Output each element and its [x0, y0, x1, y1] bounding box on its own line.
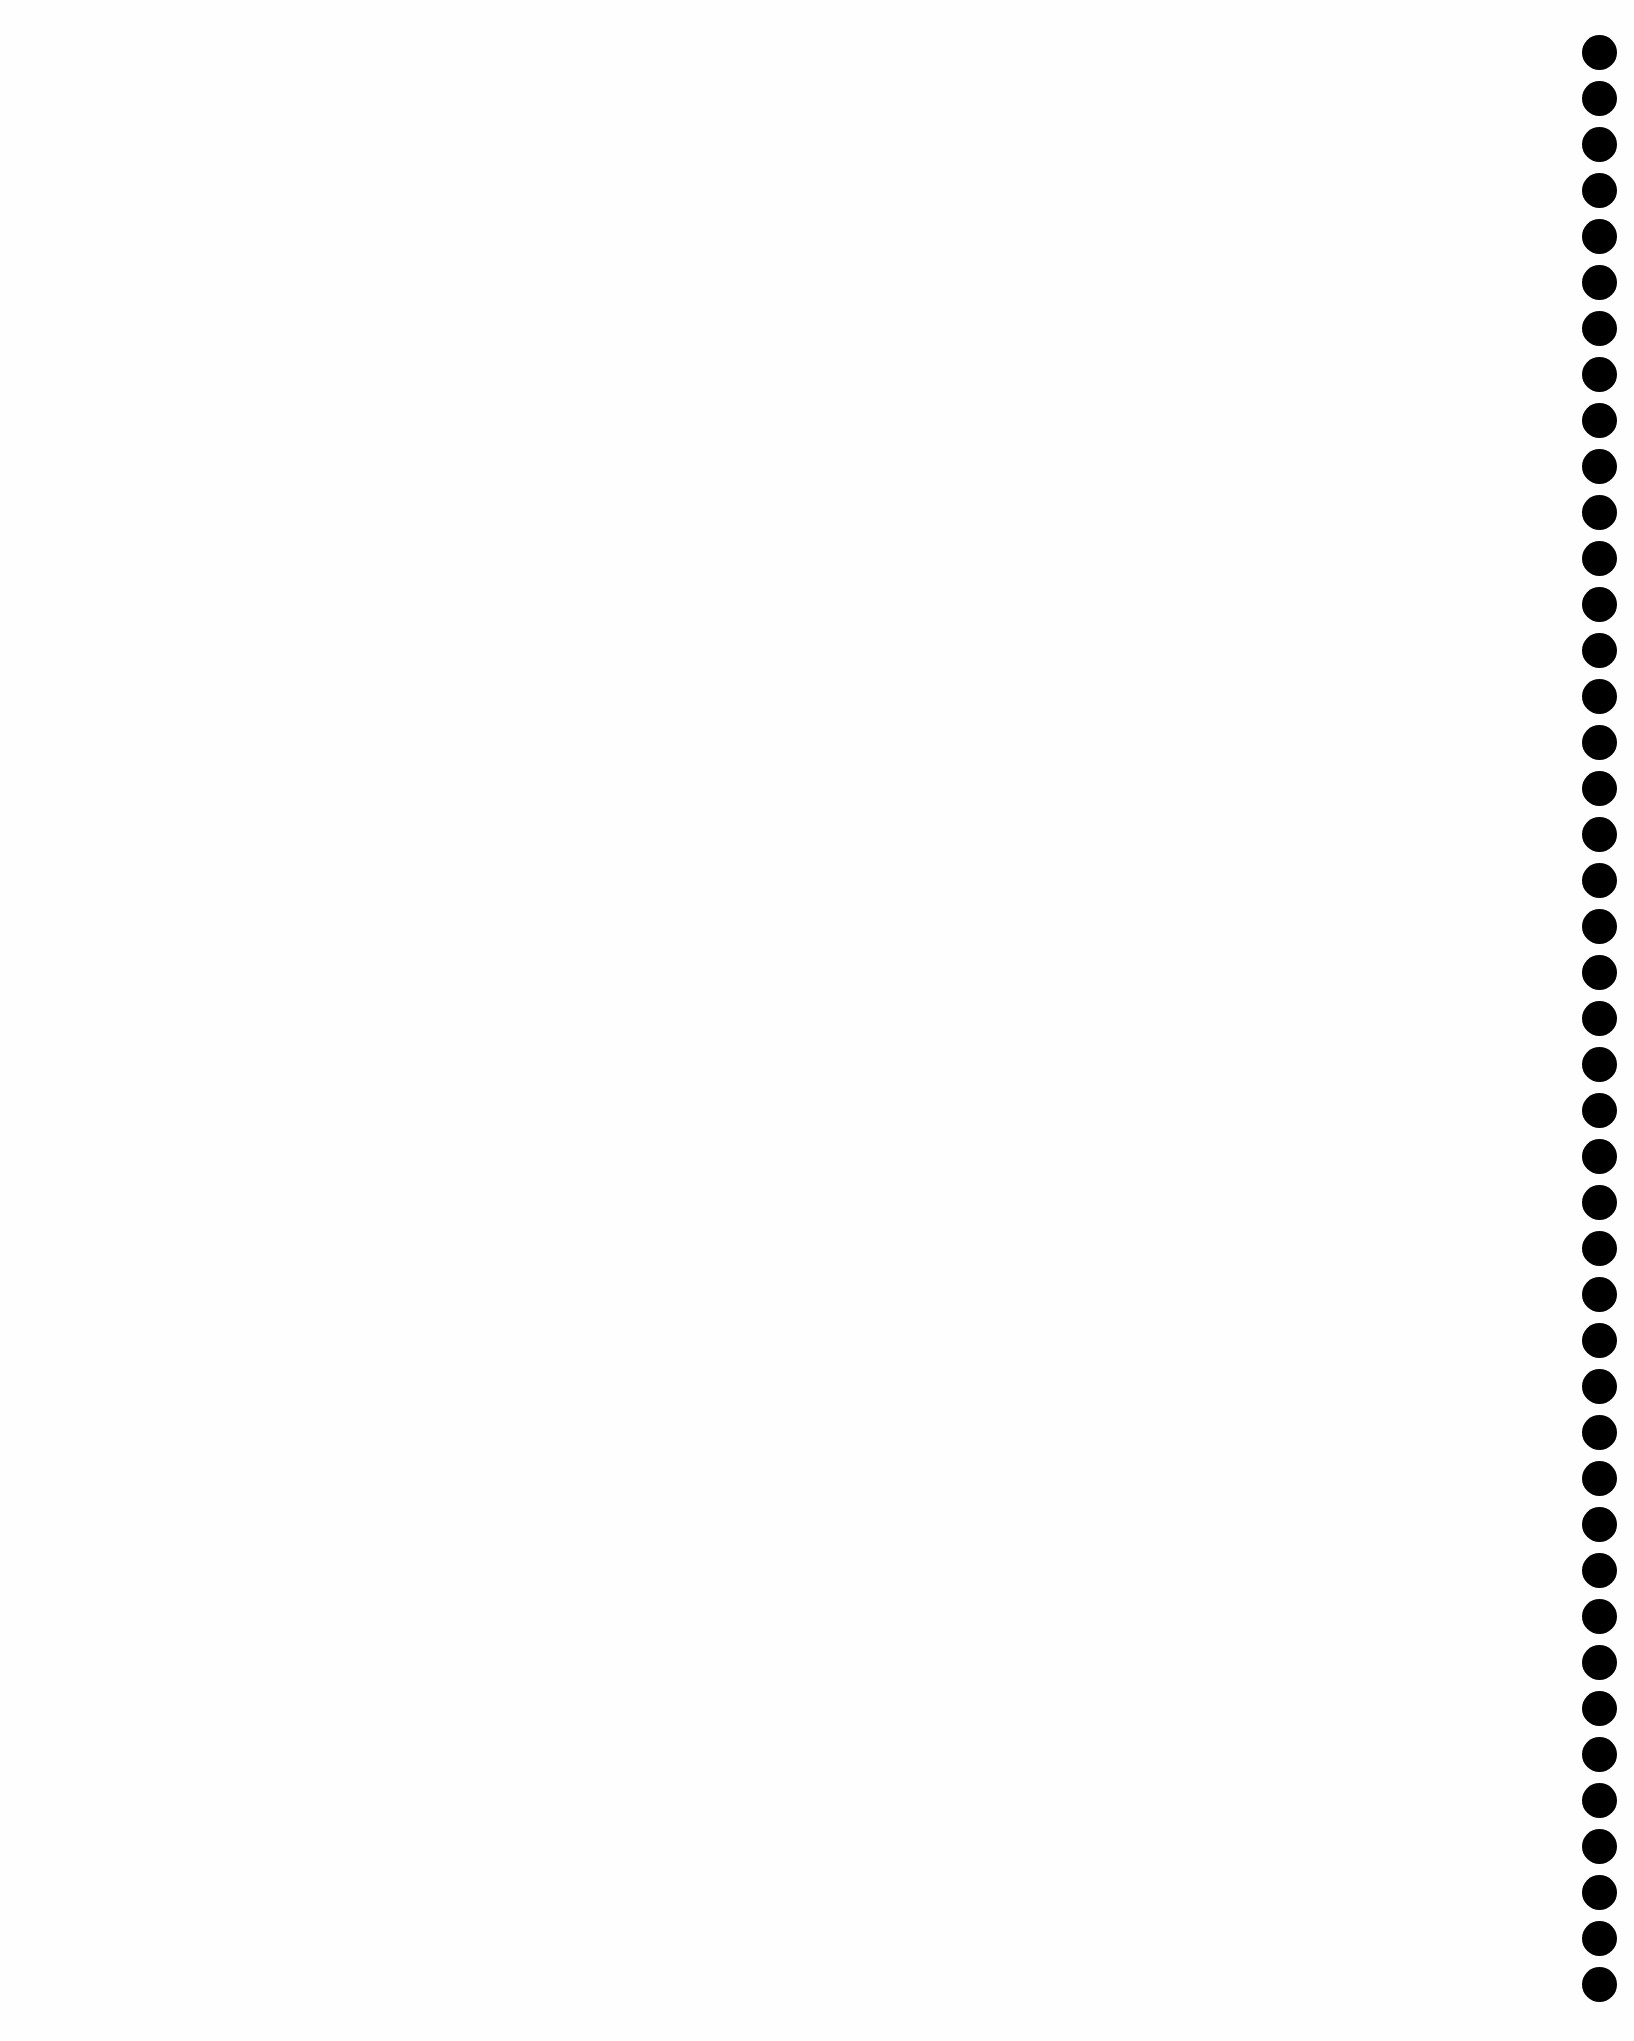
punch-hole	[1582, 1507, 1617, 1542]
punch-hole	[1582, 541, 1617, 576]
punch-hole	[1582, 1185, 1617, 1220]
punch-hole	[1582, 357, 1617, 392]
punch-hole	[1582, 1829, 1617, 1864]
punch-hole	[1582, 449, 1617, 484]
punch-hole	[1582, 955, 1617, 990]
punch-hole	[1582, 1139, 1617, 1174]
punch-hole	[1582, 81, 1617, 116]
punch-hole	[1582, 173, 1617, 208]
punch-hole	[1582, 35, 1617, 70]
punch-hole	[1582, 679, 1617, 714]
punch-hole	[1582, 909, 1617, 944]
punch-hole	[1582, 725, 1617, 760]
punch-hole	[1582, 1231, 1617, 1266]
punch-hole	[1582, 1093, 1617, 1128]
punch-hole	[1582, 1369, 1617, 1404]
punch-hole-column	[1582, 0, 1618, 2041]
punch-hole	[1582, 495, 1617, 530]
punch-hole	[1582, 1783, 1617, 1818]
punch-hole	[1582, 265, 1617, 300]
punch-hole	[1582, 311, 1617, 346]
punch-hole	[1582, 1415, 1617, 1450]
punch-hole	[1582, 633, 1617, 668]
punch-hole	[1582, 1001, 1617, 1036]
punch-hole	[1582, 1921, 1617, 1956]
punch-hole	[1582, 863, 1617, 898]
punch-hole	[1582, 219, 1617, 254]
punch-hole	[1582, 1645, 1617, 1680]
punch-hole	[1582, 1967, 1617, 2002]
punch-hole	[1582, 1461, 1617, 1496]
punch-hole	[1582, 1277, 1617, 1312]
blank-page	[0, 0, 1634, 2041]
punch-hole	[1582, 1875, 1617, 1910]
punch-hole	[1582, 771, 1617, 806]
punch-hole	[1582, 1599, 1617, 1634]
punch-hole	[1582, 817, 1617, 852]
punch-hole	[1582, 1691, 1617, 1726]
punch-hole	[1582, 1047, 1617, 1082]
punch-hole	[1582, 1323, 1617, 1358]
punch-hole	[1582, 127, 1617, 162]
punch-hole	[1582, 1553, 1617, 1588]
punch-hole	[1582, 403, 1617, 438]
punch-hole	[1582, 1737, 1617, 1772]
punch-hole	[1582, 587, 1617, 622]
